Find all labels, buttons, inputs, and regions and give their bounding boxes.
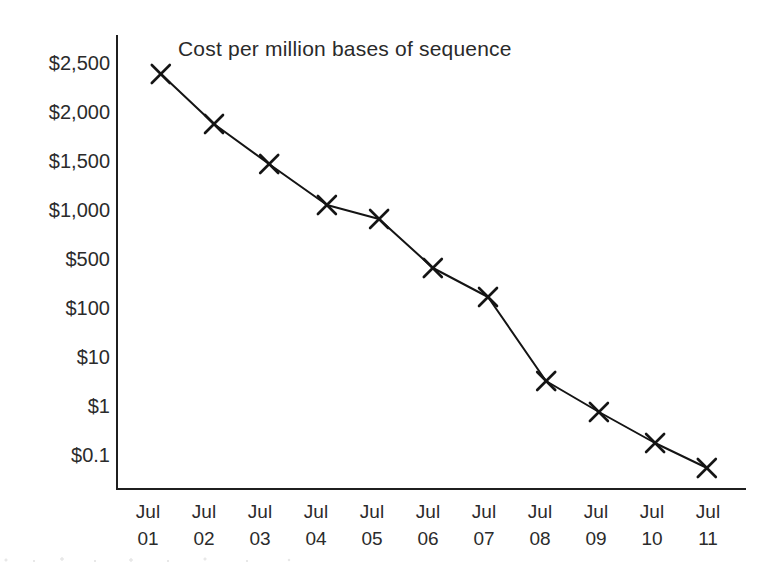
x-tick-year: 02 (193, 528, 214, 549)
x-tick-year: 04 (305, 528, 327, 549)
data-point-marker (152, 65, 170, 83)
data-point-marker (205, 115, 223, 133)
line-chart: Cost per million bases of sequence $2,50… (0, 0, 759, 573)
x-tick-year: 03 (249, 528, 270, 549)
x-tick-month: Jul (360, 501, 384, 522)
x-tick-label: Jul04 (304, 501, 328, 549)
data-point-marker (537, 372, 555, 390)
y-tick-label: $500 (66, 248, 111, 270)
x-axis-tick-labels: Jul01Jul02Jul03Jul04Jul05Jul06Jul07Jul08… (136, 501, 720, 549)
x-tick-year: 10 (641, 528, 662, 549)
x-tick-month: Jul (192, 501, 216, 522)
y-tick-label: $0.1 (71, 444, 110, 466)
x-tick-year: 01 (137, 528, 158, 549)
y-tick-label: $2,500 (49, 52, 110, 74)
y-tick-label: $1 (88, 395, 110, 417)
data-point-marker (646, 434, 664, 452)
data-point-marker (479, 288, 497, 306)
x-tick-month: Jul (136, 501, 160, 522)
x-tick-label: Jul11 (696, 501, 720, 549)
x-tick-month: Jul (696, 501, 720, 522)
x-tick-month: Jul (584, 501, 608, 522)
x-tick-month: Jul (528, 501, 552, 522)
x-tick-label: Jul08 (528, 501, 552, 549)
x-tick-month: Jul (416, 501, 440, 522)
y-axis-tick-labels: $2,500$2,000$1,500$1,000$500$100$10$1$0.… (49, 52, 110, 466)
x-tick-label: Jul01 (136, 501, 160, 549)
chart-title: Cost per million bases of sequence (178, 37, 512, 60)
x-tick-month: Jul (304, 501, 328, 522)
y-tick-label: $1,500 (49, 150, 110, 172)
y-tick-label: $100 (66, 297, 111, 319)
data-point-marker (318, 196, 336, 214)
data-point-marker (260, 155, 278, 173)
x-tick-label: Jul06 (416, 501, 440, 549)
data-point-markers (152, 65, 716, 477)
y-tick-label: $1,000 (49, 199, 110, 221)
x-tick-year: 06 (417, 528, 438, 549)
y-tick-label: $10 (77, 346, 110, 368)
x-tick-year: 08 (529, 528, 550, 549)
x-tick-label: Jul10 (640, 501, 664, 549)
x-tick-label: Jul03 (248, 501, 272, 549)
x-tick-label: Jul09 (584, 501, 608, 549)
data-point-marker (590, 403, 608, 421)
x-tick-year: 11 (698, 528, 718, 549)
x-tick-year: 07 (473, 528, 494, 549)
x-tick-label: Jul07 (472, 501, 496, 549)
data-point-marker (424, 259, 442, 277)
x-tick-month: Jul (248, 501, 272, 522)
x-tick-label: Jul05 (360, 501, 384, 549)
chart-container: Cost per million bases of sequence $2,50… (0, 0, 759, 573)
x-tick-label: Jul02 (192, 501, 216, 549)
data-point-marker (370, 210, 388, 228)
x-tick-year: 05 (361, 528, 382, 549)
x-tick-month: Jul (472, 501, 496, 522)
x-tick-month: Jul (640, 501, 664, 522)
x-tick-year: 09 (585, 528, 606, 549)
data-point-marker (698, 459, 716, 477)
y-tick-label: $2,000 (49, 101, 110, 123)
